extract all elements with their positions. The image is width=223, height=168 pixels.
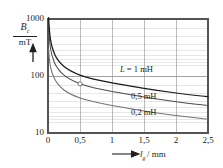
y-axis-subscript: c bbox=[27, 28, 30, 34]
x-tick-label-0-5: 0,5 bbox=[67, 135, 93, 145]
x-tick-label-1-5: 1,5 bbox=[131, 135, 157, 145]
y-axis-unit: mT bbox=[8, 37, 42, 47]
y-axis-title: Bc mT bbox=[8, 22, 42, 47]
operating-point-marker bbox=[78, 82, 82, 86]
x-tick-label-2: 2 bbox=[163, 135, 189, 145]
x-tick-label-0: 0 bbox=[35, 135, 61, 145]
curve-label-0-5mH: 0,5 mH bbox=[131, 91, 157, 101]
x-tick-label-1: 1 bbox=[99, 135, 125, 145]
x-axis-title: lg/ mm bbox=[140, 149, 166, 161]
y-tick-label-100: 100 bbox=[18, 70, 44, 80]
curve-label-1mH: L = 1 mH bbox=[120, 64, 153, 74]
x-tick-label-2-5: 2,5 bbox=[195, 135, 221, 145]
y-axis-title-numerator: Bc bbox=[8, 22, 42, 36]
y-axis-symbol: B bbox=[21, 21, 27, 32]
x-axis-unit: / mm bbox=[147, 149, 166, 159]
curve-label-1mH-rest: = 1 mH bbox=[125, 64, 153, 74]
curve-label-0-2mH: 0,2 mH bbox=[131, 107, 157, 117]
x-axis-subscript: g bbox=[143, 155, 146, 161]
